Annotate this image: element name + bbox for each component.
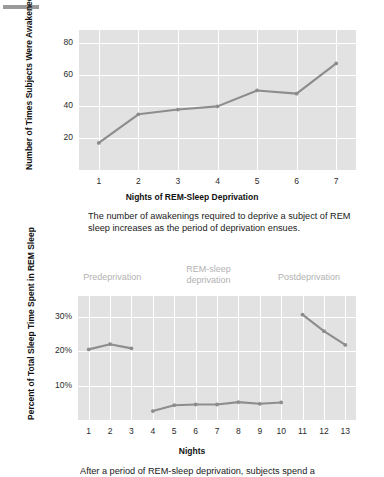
x-tick-label: 13 xyxy=(334,426,356,436)
figure2-plot-area: PredeprivationREM-sleep deprivationPostd… xyxy=(0,250,384,435)
y-tick-label: 10% xyxy=(34,380,72,390)
figure1-x-axis-title: Nights of REM-Sleep Deprivation xyxy=(0,192,384,202)
data-point xyxy=(97,141,101,145)
x-tick-label: 5 xyxy=(163,426,185,436)
figure-page: Number of Times Subjects Were Awakened t… xyxy=(0,0,384,477)
section-label: Predeprivation xyxy=(68,272,156,283)
y-tick-label: 20% xyxy=(34,345,72,355)
data-point xyxy=(301,313,305,317)
x-tick-label: 2 xyxy=(127,176,149,186)
data-point xyxy=(236,400,240,404)
x-tick-label: 2 xyxy=(99,426,121,436)
x-tick-label: 7 xyxy=(325,176,347,186)
data-point xyxy=(279,401,283,405)
x-tick-label: 3 xyxy=(120,426,142,436)
x-tick-label: 6 xyxy=(185,426,207,436)
y-tick-label: 30% xyxy=(34,311,72,321)
x-tick-label: 3 xyxy=(167,176,189,186)
y-tick-label: 60 xyxy=(35,69,73,79)
x-tick-label: 5 xyxy=(246,176,268,186)
figure2-caption: After a period of REM-sleep deprivation,… xyxy=(80,465,370,477)
data-point xyxy=(172,403,176,407)
data-point xyxy=(295,92,299,96)
data-point xyxy=(108,342,112,346)
x-tick-label: 1 xyxy=(78,426,100,436)
data-point xyxy=(255,89,259,93)
data-point xyxy=(322,329,326,333)
figure1-plot-area: 80604020 1234567 xyxy=(0,0,384,200)
data-point xyxy=(176,108,180,112)
data-point xyxy=(151,409,155,413)
x-tick-label: 9 xyxy=(249,426,271,436)
data-point xyxy=(130,346,134,350)
data-point xyxy=(258,402,262,406)
y-tick-label: 20 xyxy=(35,132,73,142)
data-point xyxy=(136,112,140,116)
data-point xyxy=(87,347,91,351)
x-tick-label: 12 xyxy=(313,426,335,436)
figure2-x-axis-title: Nights xyxy=(0,446,384,456)
x-tick-label: 7 xyxy=(206,426,228,436)
data-point xyxy=(343,343,347,347)
data-point xyxy=(334,62,338,66)
x-tick-label: 11 xyxy=(292,426,314,436)
y-tick-label: 80 xyxy=(35,37,73,47)
data-point xyxy=(215,403,219,407)
figure1-caption: The number of awakenings required to dep… xyxy=(88,210,360,235)
data-point xyxy=(216,104,220,108)
x-tick-label: 4 xyxy=(142,426,164,436)
x-tick-label: 10 xyxy=(270,426,292,436)
section-label: Postdeprivation xyxy=(265,272,353,283)
x-tick-label: 4 xyxy=(207,176,229,186)
x-tick-label: 8 xyxy=(227,426,249,436)
x-tick-label: 6 xyxy=(286,176,308,186)
figure-rem-percent: Percent of Total Sleep Time Spent in REM… xyxy=(0,250,384,477)
data-point xyxy=(194,403,198,407)
x-tick-label: 1 xyxy=(88,176,110,186)
y-tick-label: 40 xyxy=(35,100,73,110)
figure-awakenings: Number of Times Subjects Were Awakened t… xyxy=(0,0,384,236)
data-line xyxy=(99,63,336,143)
section-label: REM-sleep deprivation xyxy=(164,264,252,285)
